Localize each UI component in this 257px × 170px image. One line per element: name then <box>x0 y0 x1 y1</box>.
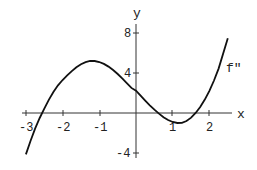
x-axis-label: x <box>237 107 245 122</box>
x-tick-label: -2 <box>56 121 70 135</box>
x-tick-label: -1 <box>93 121 107 135</box>
y-tick-label: -4 <box>116 147 130 161</box>
x-tick-label: 2 <box>206 121 213 135</box>
y-tick-label: 8 <box>124 27 131 41</box>
x-tick-label: -3 <box>19 121 33 135</box>
f-double-prime-curve <box>26 38 228 154</box>
y-axis-label: y <box>133 6 141 21</box>
chart: -3 -2 -1 1 2 8 4 -4 x y f" <box>0 0 257 170</box>
curve-label: f" <box>226 61 242 76</box>
y-tick-label: 4 <box>124 67 131 81</box>
